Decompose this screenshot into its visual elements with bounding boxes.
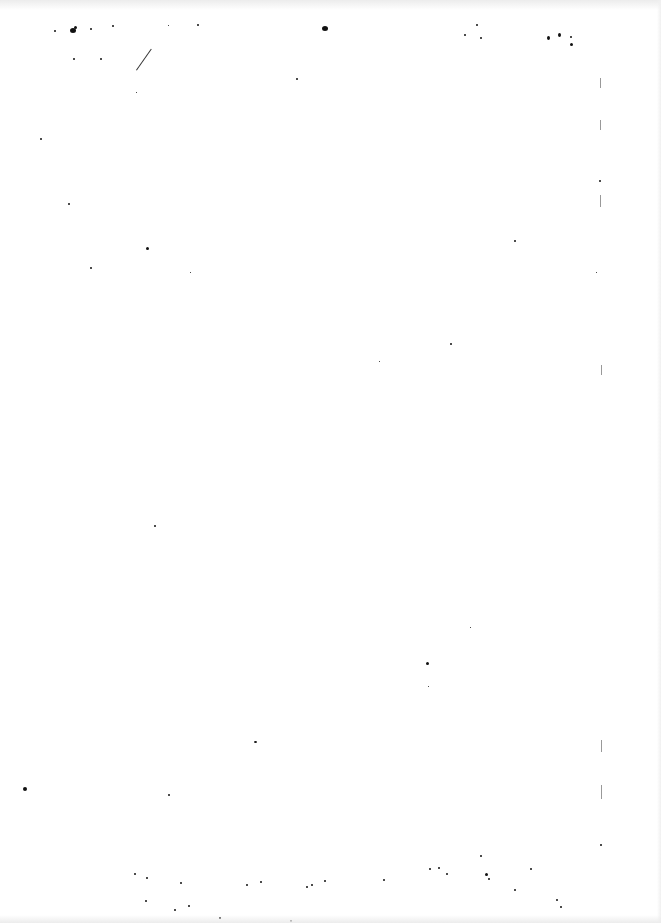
scan-speck bbox=[480, 37, 482, 39]
scan-speck bbox=[596, 272, 597, 273]
scan-speck bbox=[154, 525, 156, 527]
scan-speck bbox=[324, 880, 326, 882]
scan-speck bbox=[90, 28, 92, 30]
scan-speck bbox=[145, 900, 147, 902]
scan-edge-mark bbox=[601, 365, 602, 375]
scan-speck bbox=[600, 844, 602, 846]
scan-speck bbox=[100, 58, 102, 60]
scan-speck bbox=[23, 787, 27, 791]
scan-speck bbox=[322, 26, 328, 31]
scan-speck bbox=[488, 878, 490, 880]
scan-speck bbox=[514, 889, 516, 891]
scan-speck bbox=[383, 879, 385, 881]
scan-speck bbox=[429, 868, 431, 870]
scan-speck bbox=[450, 343, 452, 345]
scan-speck bbox=[485, 873, 488, 876]
scan-edge-mark bbox=[600, 78, 601, 88]
scan-speck bbox=[426, 662, 429, 665]
scan-speck bbox=[446, 873, 448, 875]
scan-speck bbox=[530, 868, 532, 870]
scan-speck bbox=[556, 899, 558, 901]
scan-speck bbox=[68, 203, 70, 205]
scan-speck bbox=[464, 34, 466, 36]
scan-speck bbox=[570, 43, 573, 46]
scan-edge-mark bbox=[600, 120, 601, 130]
scan-speck bbox=[134, 873, 136, 875]
scan-speck bbox=[476, 24, 478, 26]
scan-speck bbox=[428, 686, 429, 687]
scan-speck bbox=[112, 25, 114, 27]
scan-speck bbox=[290, 920, 292, 922]
scan-speck bbox=[438, 867, 440, 869]
scan-speck bbox=[73, 58, 75, 60]
blank-scanned-page bbox=[0, 0, 661, 923]
scan-edge-mark bbox=[601, 740, 602, 752]
scan-speck bbox=[146, 247, 149, 250]
scan-speck bbox=[470, 627, 471, 628]
scan-edge-mark bbox=[600, 195, 601, 207]
scan-speck bbox=[136, 92, 137, 93]
scan-speck bbox=[146, 877, 148, 879]
scan-speck bbox=[168, 25, 169, 26]
scan-speck bbox=[180, 882, 182, 884]
page-edge-shadow bbox=[657, 0, 661, 923]
scan-speck bbox=[514, 240, 516, 242]
scan-edge-mark bbox=[601, 785, 602, 799]
scan-speck bbox=[174, 909, 176, 911]
scan-speck bbox=[558, 33, 561, 37]
scan-speck bbox=[188, 905, 190, 907]
scan-speck bbox=[560, 906, 562, 908]
scan-speck bbox=[379, 361, 380, 362]
scan-speck bbox=[90, 267, 92, 269]
scan-speck bbox=[40, 138, 42, 140]
scan-speck bbox=[197, 24, 199, 26]
scan-speck bbox=[547, 36, 550, 40]
scan-speck bbox=[74, 26, 77, 29]
scan-speck bbox=[311, 884, 313, 886]
scan-stroke bbox=[136, 49, 152, 71]
scan-speck bbox=[260, 881, 262, 883]
scan-speck bbox=[219, 917, 221, 919]
scan-speck bbox=[254, 741, 257, 743]
scan-speck bbox=[296, 78, 298, 80]
scan-speck bbox=[190, 272, 191, 273]
scan-speck bbox=[168, 794, 170, 796]
scan-speck bbox=[54, 30, 56, 32]
scan-speck bbox=[599, 180, 601, 182]
scan-speck bbox=[306, 886, 308, 888]
scan-speck bbox=[480, 855, 482, 857]
scan-speck bbox=[246, 884, 248, 886]
scan-speck bbox=[570, 36, 572, 38]
